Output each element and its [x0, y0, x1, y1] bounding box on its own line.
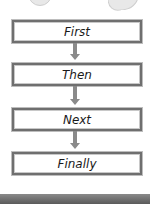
- flow-step-label: Next: [63, 113, 91, 127]
- cloud-decoration-left: [28, 0, 52, 6]
- bottom-bar: [0, 194, 150, 204]
- flow-step-label: First: [64, 25, 90, 39]
- cloud-decoration-right: [107, 0, 141, 12]
- down-arrow-icon: [73, 86, 77, 100]
- flow-step-first: First: [12, 20, 142, 43]
- down-arrow-icon: [73, 43, 77, 55]
- flow-step-finally: Finally: [12, 152, 142, 175]
- flow-step-then: Then: [12, 63, 142, 86]
- flow-step-label: Then: [62, 68, 92, 82]
- down-arrow-icon: [73, 131, 77, 144]
- flow-step-label: Finally: [58, 157, 97, 171]
- flow-step-next: Next: [12, 108, 142, 131]
